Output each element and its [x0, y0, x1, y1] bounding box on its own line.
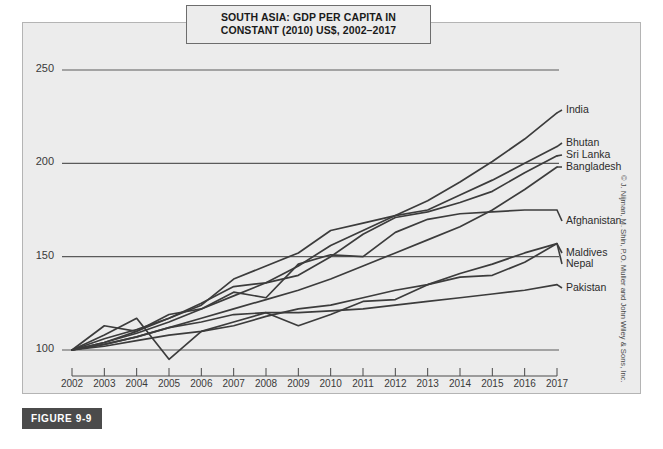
series-label-bangladesh: Bangladesh	[566, 160, 621, 172]
figure-page: SOUTH ASIA: GDP PER CAPITA IN CONSTANT (…	[0, 0, 663, 449]
chart-panel	[22, 22, 641, 394]
x-tick-label: 2017	[537, 378, 577, 389]
series-label-afghanistan: Afghanistan	[566, 214, 621, 226]
y-tick-label: 100	[20, 342, 54, 354]
y-tick-label: 250	[20, 62, 54, 74]
chart-title: SOUTH ASIA: GDP PER CAPITA IN CONSTANT (…	[186, 5, 431, 44]
series-label-bhutan: Bhutan	[566, 136, 599, 148]
y-tick-label: 150	[20, 249, 54, 261]
chart-title-line-2: CONSTANT (2010) US$, 2002–2017	[193, 24, 424, 37]
series-label-pakistan: Pakistan	[566, 281, 606, 293]
copyright-credit: © J. Nijman, M. Shin, P.O. Muller and Jo…	[619, 175, 628, 383]
figure-number-badge: FIGURE 9-9	[22, 408, 102, 429]
series-label-india: India	[566, 103, 589, 115]
series-label-sri-lanka: Sri Lanka	[566, 148, 610, 160]
series-label-nepal: Nepal	[566, 257, 593, 269]
y-tick-label: 200	[20, 155, 54, 167]
chart-title-line-1: SOUTH ASIA: GDP PER CAPITA IN	[193, 11, 424, 24]
